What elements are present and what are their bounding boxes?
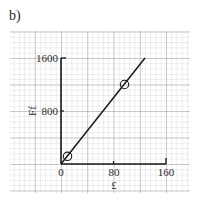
x-tick-label-0: 0 (58, 166, 64, 178)
y-tick-label-800: 800 (42, 105, 59, 117)
x-axis-title: £ (111, 179, 117, 191)
y-tick-label-1600: 1600 (36, 52, 59, 64)
x-tick-label-80: 80 (109, 166, 121, 178)
y-axis-title: Ff (26, 106, 38, 116)
x-tick-label-160: 160 (158, 166, 175, 178)
line-chart: 1600 800 0 80 160 £ Ff (0, 0, 199, 201)
